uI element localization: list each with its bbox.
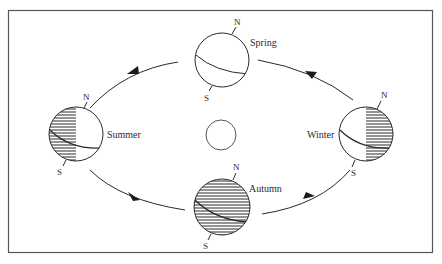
axis-south [352,160,355,167]
axis-south [63,160,66,166]
globe-spring: N S Spring [195,17,277,103]
orbit-arc-winter-to-spring [258,60,353,100]
north-label: N [233,162,240,172]
axis-north [232,27,236,34]
season-label-summer: Summer [107,129,142,140]
season-label-autumn: Autumn [249,183,282,194]
arrowhead-icon [128,192,140,201]
season-label-winter: Winter [307,129,335,140]
orbit-arc-spring-to-summer [90,62,178,108]
north-label: N [83,92,90,102]
seasons-diagram: N S Spring N S Summer N S Autumn N S Win… [0,0,442,264]
axis-north [84,102,87,108]
orbit-arc-summer-to-autumn [90,170,185,210]
south-label: S [204,93,209,103]
arrowhead-icon [127,66,139,74]
axis-north [233,173,236,180]
axis-south [209,86,212,91]
axis-north [377,101,381,109]
north-label: N [234,17,241,27]
globe-summer: N S Summer [49,92,142,177]
sun-circle [206,120,236,150]
arrowhead-icon [305,71,317,79]
season-label-spring: Spring [250,37,277,48]
axis-south [208,234,211,240]
globe-winter: N S Winter [307,90,393,178]
globe-autumn: N S Autumn [194,162,282,251]
north-label: N [381,90,388,100]
south-label: S [57,167,62,177]
south-label: S [203,241,208,251]
south-label: S [351,168,356,178]
